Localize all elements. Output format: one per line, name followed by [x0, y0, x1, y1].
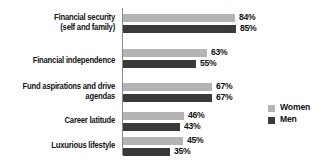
bar-men: [123, 148, 170, 156]
bar-value-label: 43%: [184, 121, 200, 131]
bar-value-label: 84%: [239, 12, 255, 22]
bar-men: [123, 123, 180, 131]
bar-value-label: 67%: [216, 81, 232, 91]
bar-row: 85%: [123, 25, 333, 33]
legend-swatch-men-icon: [268, 117, 275, 124]
bar-men: [123, 25, 236, 33]
plot-area: Financial security (self and family)84%8…: [0, 0, 333, 162]
bar-value-label: 35%: [174, 146, 190, 156]
bar-women: [123, 49, 207, 57]
bar-row: 67%: [123, 94, 333, 102]
legend-label-men: Men: [280, 114, 297, 124]
bar-row: 46%: [123, 112, 333, 120]
bar-row: 35%: [123, 148, 333, 156]
legend-label-women: Women: [280, 102, 310, 112]
bar-row: 45%: [123, 137, 333, 145]
bar-row: 43%: [123, 123, 333, 131]
bar-value-label: 85%: [240, 23, 256, 33]
bar-women: [123, 137, 183, 145]
bar-row: 63%: [123, 49, 333, 57]
legend-swatch-women-icon: [268, 105, 275, 112]
bar-men: [123, 94, 212, 102]
bar-row: 84%: [123, 14, 333, 22]
bar-chart: Financial security (self and family)84%8…: [0, 0, 333, 162]
category-label: Fund aspirations and drive agendas: [12, 81, 115, 101]
bar-men: [123, 60, 196, 68]
bar-value-label: 45%: [187, 135, 203, 145]
bar-row: 67%: [123, 83, 333, 91]
bar-women: [123, 83, 212, 91]
category-label: Luxurious lifestyle: [12, 140, 115, 150]
category-label: Career latitude: [12, 115, 115, 125]
bar-value-label: 67%: [216, 92, 232, 102]
bar-row: 55%: [123, 60, 333, 68]
bar-value-label: 46%: [188, 110, 204, 120]
bar-women: [123, 14, 235, 22]
category-label: Financial independence: [12, 55, 115, 65]
bar-value-label: 55%: [200, 58, 216, 68]
category-label: Financial security (self and family): [12, 12, 115, 32]
bar-women: [123, 112, 184, 120]
bar-value-label: 63%: [211, 47, 227, 57]
